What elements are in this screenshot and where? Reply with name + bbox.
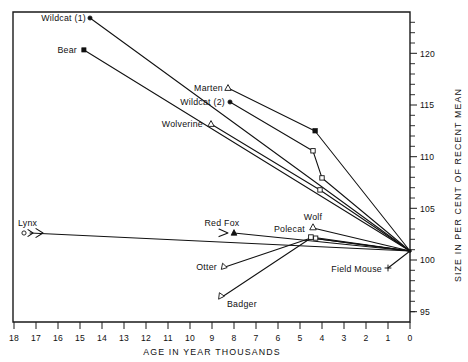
marker-wildcat2-mid2 — [320, 176, 324, 180]
species-labels: Wildcat (1) Bear Marten Wildcat (2) Wolv… — [18, 13, 382, 309]
marker-wolverine-mid — [318, 188, 322, 192]
x-tick-label-15: 15 — [75, 333, 85, 343]
marker-polecat-cluster — [314, 236, 318, 240]
x-tick-label-14: 14 — [97, 333, 107, 343]
y-tick-label-120: 120 — [420, 49, 435, 59]
species-label-badger: Badger — [227, 299, 257, 309]
marker-wolverine-start — [208, 121, 214, 127]
marker-bear-start — [82, 48, 86, 52]
series-line-wildcat1 — [90, 18, 410, 251]
x-tick-label-16: 16 — [53, 333, 63, 343]
marker-wildcat1-start — [88, 16, 92, 20]
x-tick-label-9: 9 — [210, 333, 215, 343]
species-label-polecat: Polecat — [274, 224, 305, 234]
marker-lynx-arrowhead-right — [219, 229, 228, 237]
marker-convergence-point — [409, 250, 412, 253]
figure-container: 18 17 16 15 14 13 12 11 10 9 8 7 6 5 4 3… — [0, 0, 468, 362]
series-line-wolverine — [211, 124, 410, 251]
species-label-otter: Otter — [196, 262, 217, 272]
x-tick-label-2: 2 — [364, 333, 369, 343]
x-tick-label-10: 10 — [185, 333, 195, 343]
species-label-wolverine: Wolverine — [162, 119, 203, 129]
species-label-wolf: Wolf — [304, 212, 323, 222]
species-label-lynx: Lynx — [18, 218, 38, 228]
marker-wildcat2-mid1 — [311, 149, 315, 153]
x-tick-label-17: 17 — [31, 333, 41, 343]
x-tick-label-18: 18 — [9, 333, 19, 343]
marker-lynx-start — [22, 231, 26, 235]
x-axis-ticks — [14, 322, 410, 329]
y-tick-label-105: 105 — [420, 204, 435, 214]
species-label-wildcat2: Wildcat (2) — [180, 97, 225, 107]
y-tick-label-100: 100 — [420, 255, 435, 265]
x-tick-label-8: 8 — [232, 333, 237, 343]
species-label-fieldmouse: Field Mouse — [331, 264, 382, 274]
x-tick-label-13: 13 — [119, 333, 129, 343]
y-axis-title: SIZE IN PER CENT OF RECENT MEAN — [453, 88, 463, 282]
series-line-redfox — [234, 233, 410, 251]
series-line-bear — [84, 50, 410, 251]
series-lines — [30, 18, 410, 297]
x-tick-label-0: 0 — [408, 333, 413, 343]
marker-otter-start — [221, 263, 227, 269]
species-label-bear: Bear — [57, 45, 77, 55]
y-axis-minor-ticks — [410, 22, 415, 311]
y-axis-major-ticks — [410, 53, 417, 311]
marker-redfox-start — [231, 230, 237, 236]
x-tick-label-7: 7 — [254, 333, 259, 343]
x-tick-label-11: 11 — [163, 333, 172, 343]
species-label-marten: Marten — [194, 83, 223, 93]
x-axis-title: AGE IN YEAR THOUSANDS — [143, 347, 281, 357]
x-tick-label-3: 3 — [342, 333, 347, 343]
x-tick-label-12: 12 — [141, 333, 151, 343]
x-tick-label-1: 1 — [386, 333, 391, 343]
x-tick-label-5: 5 — [298, 333, 303, 343]
x-tick-label-6: 6 — [276, 333, 281, 343]
series-markers — [22, 16, 412, 299]
series-line-otter — [225, 238, 410, 267]
marker-wolf-start — [310, 224, 317, 230]
marker-badger-start — [219, 293, 225, 300]
series-line-fieldmouse — [388, 251, 410, 268]
species-label-redfox: Red Fox — [205, 218, 240, 228]
marker-polecat-start — [309, 235, 314, 240]
y-tick-label-95: 95 — [420, 307, 430, 317]
plot-frame — [13, 12, 410, 322]
size-vs-age-line-chart: 18 17 16 15 14 13 12 11 10 9 8 7 6 5 4 3… — [0, 0, 468, 362]
marker-wildcat2-start — [228, 100, 232, 104]
species-label-wildcat1: Wildcat (1) — [41, 13, 86, 23]
marker-marten-start — [225, 85, 231, 91]
x-tick-label-4: 4 — [320, 333, 325, 343]
x-axis-tick-labels: 18 17 16 15 14 13 12 11 10 9 8 7 6 5 4 3… — [9, 333, 412, 343]
marker-marten-mid — [313, 129, 317, 133]
y-tick-label-115: 115 — [420, 100, 434, 110]
y-axis-tick-labels: 120 115 110 105 100 95 — [420, 49, 435, 317]
y-tick-label-110: 110 — [420, 152, 434, 162]
